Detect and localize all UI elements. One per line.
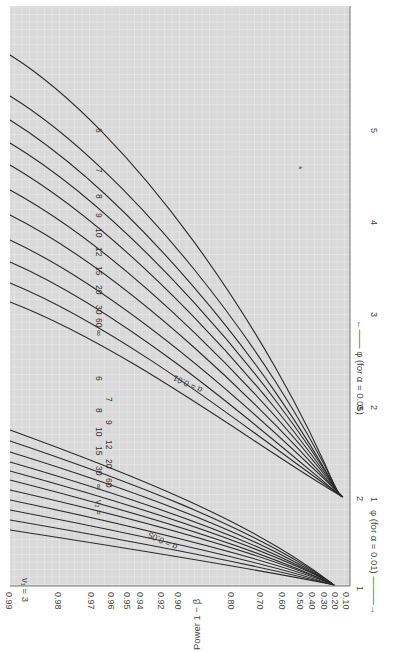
svg-text:9: 9 <box>94 213 104 218</box>
svg-text:60: 60 <box>104 478 114 488</box>
svg-text:0.80: 0.80 <box>226 592 236 610</box>
power-axis-ticks: 0.99 0.98 0.97 0.96 0.95 0.94 0.92 0.90 … <box>4 592 351 610</box>
svg-text:0.97: 0.97 <box>86 592 96 610</box>
phi-alpha-01-label: φ (for α = 0.01) ———→ <box>369 510 380 614</box>
svg-text:0.70: 0.70 <box>255 592 265 610</box>
svg-text:0.90: 0.90 <box>173 592 183 610</box>
svg-text:9: 9 <box>104 420 114 425</box>
svg-text:0.30: 0.30 <box>319 592 329 610</box>
svg-text:0.96: 0.96 <box>106 592 116 610</box>
svg-text:6: 6 <box>94 128 104 133</box>
svg-text:0.92: 0.92 <box>156 592 166 610</box>
power-chart: ν₁ = 3 α = 0.05 α = 0.01 6 7 8 9 10 12 1… <box>0 0 393 653</box>
svg-text:6: 6 <box>94 376 104 381</box>
svg-text:∞: ∞ <box>94 330 104 336</box>
svg-text:2: 2 <box>355 496 365 501</box>
svg-text:0.20: 0.20 <box>330 592 340 610</box>
svg-text:10: 10 <box>94 228 104 238</box>
svg-text:0.99: 0.99 <box>4 592 14 610</box>
phi-alpha-05-label: ←—— φ (for α = 0.05) <box>355 320 366 415</box>
svg-text:7: 7 <box>94 168 104 173</box>
svg-text:7: 7 <box>104 397 114 402</box>
phi-ticks-alpha-01: 1 2 3 <box>355 405 365 591</box>
svg-text:1: 1 <box>355 586 365 591</box>
svg-text:0.94: 0.94 <box>135 592 145 610</box>
svg-text:10: 10 <box>94 427 104 437</box>
svg-text:20: 20 <box>104 459 114 469</box>
svg-text:4: 4 <box>369 220 379 225</box>
svg-text:3: 3 <box>369 312 379 317</box>
svg-text:12: 12 <box>94 247 104 257</box>
svg-text:0.60: 0.60 <box>277 592 287 610</box>
svg-text:20: 20 <box>94 285 104 295</box>
power-axis-label: Power 1 − β <box>191 598 202 650</box>
svg-text:0.50: 0.50 <box>295 592 305 610</box>
svg-text:0.95: 0.95 <box>122 592 132 610</box>
svg-text:0.40: 0.40 <box>307 592 317 610</box>
stray-mark: * <box>294 166 304 170</box>
svg-text:30: 30 <box>94 466 104 476</box>
svg-text:0.98: 0.98 <box>53 592 63 610</box>
svg-text:15: 15 <box>94 446 104 456</box>
svg-text:60: 60 <box>94 318 104 328</box>
svg-text:1: 1 <box>369 497 379 502</box>
svg-text:2: 2 <box>369 405 379 410</box>
phi-ticks-alpha-05: 1 2 3 4 5 <box>369 128 379 502</box>
svg-text:15: 15 <box>94 266 104 276</box>
svg-text:ν₂ =: ν₂ = <box>94 500 104 515</box>
svg-text:12: 12 <box>104 440 114 450</box>
svg-text:8: 8 <box>94 408 104 413</box>
svg-text:5: 5 <box>369 128 379 133</box>
svg-text:30: 30 <box>94 305 104 315</box>
svg-text:∞: ∞ <box>94 484 104 490</box>
nu1-label: ν₁ = 3 <box>20 578 31 602</box>
svg-text:8: 8 <box>94 194 104 199</box>
svg-text:0.10: 0.10 <box>341 592 351 610</box>
